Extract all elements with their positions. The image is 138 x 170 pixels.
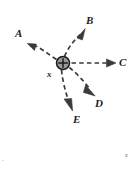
trajectory-e-path — [62, 70, 70, 102]
trajectory-label-c: C — [119, 57, 126, 68]
charge-label-x: x — [47, 70, 52, 79]
trajectory-label-d: D — [95, 98, 103, 109]
positive-charge-icon — [57, 57, 70, 70]
trajectory-c-arrow — [72, 59, 117, 67]
trajectory-a-path — [33, 45, 57, 60]
trajectory-a-arrowhead — [27, 43, 36, 50]
trajectory-d-arrow — [70, 68, 96, 97]
trajectory-label-e: E — [73, 114, 80, 125]
figure-vector-graphic — [0, 0, 138, 170]
trajectory-e-arrowhead — [64, 99, 73, 111]
trajectory-a-arrow — [27, 43, 56, 59]
trajectory-e-arrow — [62, 70, 73, 111]
trajectory-b-arrowhead — [77, 29, 85, 40]
corner-mark-bottom-right: x — [125, 152, 128, 158]
trajectory-d-path — [70, 68, 90, 89]
trajectory-label-a: A — [15, 28, 22, 39]
trajectory-b-arrow — [65, 29, 86, 57]
trajectory-label-b: B — [86, 15, 93, 26]
charge-trajectory-figure: A B C D E x · x — [0, 0, 138, 170]
corner-mark-bottom-left: · — [2, 158, 4, 164]
trajectory-c-arrowhead — [107, 59, 117, 67]
trajectory-d-arrowhead — [83, 85, 95, 96]
